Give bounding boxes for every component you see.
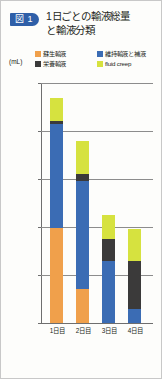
legend-item-maintenance: 維持輸液と補液: [97, 49, 159, 58]
bar-segment-維持輸液と補液-day1: [50, 124, 63, 228]
legend-label-maintenance: 維持輸液と補液: [105, 49, 146, 58]
chart-legend: 蘇生輸液維持輸液と補液栄養輸液fluid creep: [35, 49, 159, 69]
x-axis-tick-label-3: 3日目: [96, 326, 122, 335]
legend-swatch-nutrition: [35, 61, 41, 67]
y-axis-tick-1000: [38, 275, 41, 276]
y-axis-line: [41, 83, 42, 324]
legend-item-resuscitation: 蘇生輸液: [35, 49, 97, 58]
figure-title-line1: 1日ごとの輸液総量: [46, 10, 130, 24]
bar-segment-維持輸液と補液-day2: [76, 181, 89, 289]
bar-segment-fluid creep-day2: [76, 141, 89, 174]
y-axis-tick-2000: [38, 227, 41, 228]
chart-plot-area: 5,0004,0003,0002,0001,00001日目2日目3日目4日目: [41, 83, 153, 323]
bar-segment-栄養輸液-day4: [128, 261, 141, 309]
bar-2: [76, 141, 89, 323]
bar-segment-維持輸液と補液-day4: [128, 309, 141, 323]
legend-label-resuscitation: 蘇生輸液: [43, 49, 66, 58]
legend-swatch-maintenance: [97, 51, 103, 57]
x-axis-tick-label-1: 1日目: [44, 326, 70, 335]
bar-segment-蘇生輸液-day2: [76, 289, 89, 323]
x-axis-line: [41, 323, 153, 324]
bar-segment-fluid creep-day4: [128, 229, 141, 260]
legend-swatch-fluid_creep: [97, 61, 103, 67]
bar-4: [128, 229, 141, 323]
bar-segment-維持輸液と補液-day3: [102, 261, 115, 323]
x-axis-tick-label-4: 4日目: [122, 326, 148, 335]
y-axis-tick-5000: [38, 83, 41, 84]
legend-label-fluid_creep: fluid creep: [105, 59, 131, 68]
bar-segment-fluid creep-day3: [102, 215, 115, 239]
x-axis-tick-label-2: 2日目: [70, 326, 96, 335]
legend-swatch-resuscitation: [35, 51, 41, 57]
figure-header: 図 1 1日ごとの輸液総量 と輸液分類: [1, 10, 162, 37]
bar-1: [50, 98, 63, 323]
y-axis-tick-3000: [38, 179, 41, 180]
bar-segment-栄養輸液-day3: [102, 239, 115, 261]
figure-title: 1日ごとの輸液総量 と輸液分類: [46, 10, 130, 37]
y-axis-tick-0: [38, 323, 41, 324]
legend-label-nutrition: 栄養輸液: [43, 59, 66, 68]
y-axis-tick-4000: [38, 131, 41, 132]
bar-3: [102, 215, 115, 323]
bar-segment-栄養輸液-day2: [76, 174, 89, 181]
y-axis-unit-label: (mL): [9, 58, 22, 65]
figure-number-badge: 図 1: [10, 13, 39, 26]
legend-item-fluid_creep: fluid creep: [97, 59, 159, 68]
legend-item-nutrition: 栄養輸液: [35, 59, 97, 68]
figure-title-line2: と輸液分類: [46, 24, 130, 38]
gridline-5000: [41, 83, 153, 84]
bar-segment-蘇生輸液-day1: [50, 228, 63, 323]
bar-segment-fluid creep-day1: [50, 98, 63, 121]
figure-panel: 図 1 1日ごとの輸液総量 と輸液分類 蘇生輸液維持輸液と補液栄養輸液fluid…: [0, 0, 162, 379]
